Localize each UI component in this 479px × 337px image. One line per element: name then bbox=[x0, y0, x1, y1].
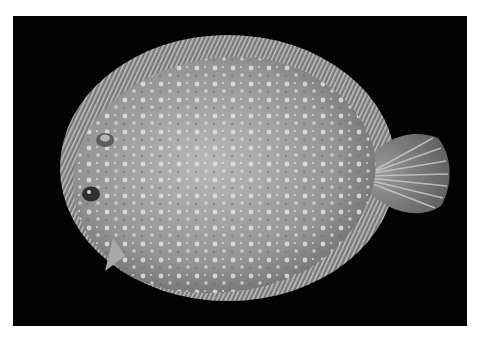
photo-frame bbox=[13, 16, 467, 326]
flatfish-image bbox=[13, 16, 467, 326]
